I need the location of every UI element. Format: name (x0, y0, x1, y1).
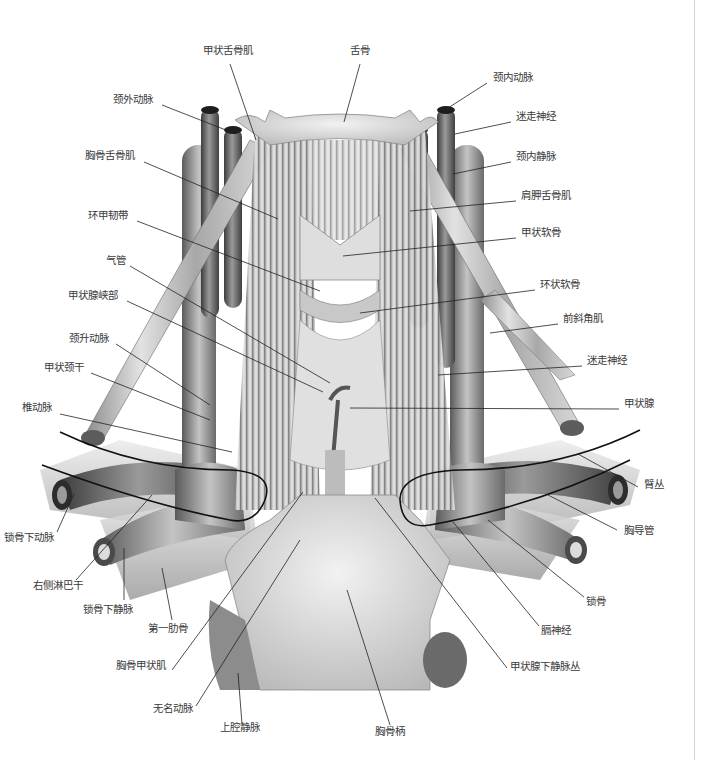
label-ext-carotid: 颈外动脉 (113, 93, 153, 105)
label-subclavian-vein: 锁骨下静脉 (83, 603, 133, 615)
hyoid-bone (235, 110, 438, 145)
label-brachiocephalic: 无名动脉 (153, 702, 193, 714)
label-vagus-mid: 迷走神经 (587, 354, 627, 366)
label-manubrium: 胸骨柄 (375, 725, 405, 737)
label-cricoid: 环状软骨 (540, 278, 580, 290)
label-vertebral: 椎动脉 (22, 401, 52, 413)
neck-anatomy-illustration (0, 0, 709, 782)
label-int-carotid: 颈内动脉 (493, 71, 533, 83)
label-thyroid-cart: 甲状软骨 (521, 226, 561, 238)
label-cricothyroid-lig: 环甲韧带 (88, 209, 128, 221)
label-omohyoid: 肩胛舌骨肌 (521, 189, 571, 201)
label-thyrohyoid: 甲状舌骨肌 (203, 44, 253, 56)
label-right-lymph: 右侧淋巴干 (33, 579, 83, 591)
leader-hyoid (344, 64, 360, 122)
label-inf-thyroid-plexus: 甲状腺下静脉丛 (510, 660, 580, 672)
label-svc: 上腔静脉 (220, 721, 260, 733)
label-isthmus: 甲状腺峡部 (68, 289, 118, 301)
label-thoracic-duct: 胸导管 (624, 524, 654, 536)
label-first-rib: 第一肋骨 (148, 622, 188, 634)
label-sternohyoid: 胸骨舌骨肌 (85, 149, 135, 161)
anatomy-figure: 甲状舌骨肌 舌骨 颈外动脉 颈内动脉 迷走神经 胸骨舌骨肌 颈内静脉 肩胛舌骨肌… (0, 0, 709, 782)
leader-vagus-top (455, 122, 511, 134)
label-vagus-top: 迷走神经 (516, 110, 556, 122)
label-hyoid: 舌骨 (350, 44, 370, 56)
label-subclavian-art: 锁骨下动脉 (4, 531, 54, 543)
label-int-jugular: 颈内静脉 (516, 150, 556, 162)
label-asc-cervical: 颈升动脉 (69, 332, 109, 344)
leader-int-carotid (448, 83, 487, 108)
label-brachial-plexus: 臂丛 (644, 478, 664, 490)
label-thyrocervical: 甲状颈干 (44, 361, 84, 373)
label-thyroid: 甲状腺 (624, 397, 654, 409)
label-trachea: 气管 (106, 254, 126, 266)
label-ant-scalene: 前斜角肌 (563, 312, 603, 324)
label-clavicle: 锁骨 (586, 595, 606, 607)
leader-ext-carotid (162, 105, 236, 134)
label-phrenic: 膈神经 (541, 624, 571, 636)
label-sternothyroid: 胸骨甲状肌 (116, 659, 166, 671)
